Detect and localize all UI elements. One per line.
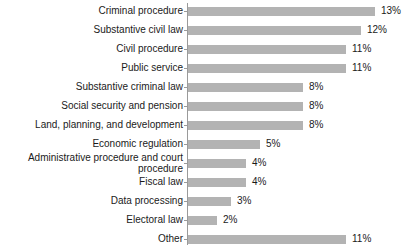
category-label: Substantive civil law xyxy=(0,24,183,35)
bar-value-label: 4% xyxy=(252,176,266,187)
bar xyxy=(188,83,303,92)
category-label: Criminal procedure xyxy=(0,5,183,16)
category-label: Fiscal law xyxy=(0,176,183,187)
bar xyxy=(188,45,346,54)
bar xyxy=(188,140,260,149)
bar-value-label: 11% xyxy=(352,43,371,54)
bar xyxy=(188,64,346,73)
bar-value-label: 8% xyxy=(309,100,323,111)
bar-value-label: 3% xyxy=(237,195,251,206)
bar-row: Land, planning, and development8% xyxy=(0,116,406,135)
category-label: Economic regulation xyxy=(0,138,183,149)
bar-row: Electoral law2% xyxy=(0,211,406,230)
category-label: Civil procedure xyxy=(0,43,183,54)
bar-row: Administrative procedure and court proce… xyxy=(0,154,406,173)
bar-rows-container: Criminal procedure13%Substantive civil l… xyxy=(0,0,406,250)
category-label: Public service xyxy=(0,62,183,73)
bar-row: Fiscal law4% xyxy=(0,173,406,192)
bar-row: Public service11% xyxy=(0,59,406,78)
bar-row: Other11% xyxy=(0,230,406,249)
bar-value-label: 5% xyxy=(266,138,280,149)
chart-plot-area: Criminal procedure13%Substantive civil l… xyxy=(0,0,406,250)
bar-chart: Criminal procedure13%Substantive civil l… xyxy=(0,0,406,250)
bar xyxy=(188,102,303,111)
category-label: Land, planning, and development xyxy=(0,119,183,130)
bar-row: Substantive civil law12% xyxy=(0,21,406,40)
category-label: Electoral law xyxy=(0,214,183,225)
bar xyxy=(188,197,231,206)
bar xyxy=(188,121,303,130)
bar-row: Criminal procedure13% xyxy=(0,2,406,21)
bar-value-label: 12% xyxy=(367,24,387,35)
bar-value-label: 8% xyxy=(309,81,323,92)
bar xyxy=(188,216,217,225)
category-label: Social security and pension xyxy=(0,100,183,111)
bar-row: Social security and pension8% xyxy=(0,97,406,116)
category-label: Other xyxy=(0,233,183,244)
bar-value-label: 11% xyxy=(352,233,371,244)
category-label: Substantive criminal law xyxy=(0,81,183,92)
bar xyxy=(188,7,375,16)
category-label: Data processing xyxy=(0,195,183,206)
bar-value-label: 2% xyxy=(223,214,237,225)
bar-value-label: 4% xyxy=(252,157,266,168)
bar-value-label: 8% xyxy=(309,119,323,130)
bar-value-label: 13% xyxy=(381,5,401,16)
bar xyxy=(188,178,246,187)
bar-row: Data processing3% xyxy=(0,192,406,211)
bar xyxy=(188,159,246,168)
bar-row: Substantive criminal law8% xyxy=(0,78,406,97)
bar-value-label: 11% xyxy=(352,62,371,73)
category-label: Administrative procedure and court proce… xyxy=(0,152,183,174)
bar xyxy=(188,235,346,244)
bar xyxy=(188,26,361,35)
bar-row: Civil procedure11% xyxy=(0,40,406,59)
